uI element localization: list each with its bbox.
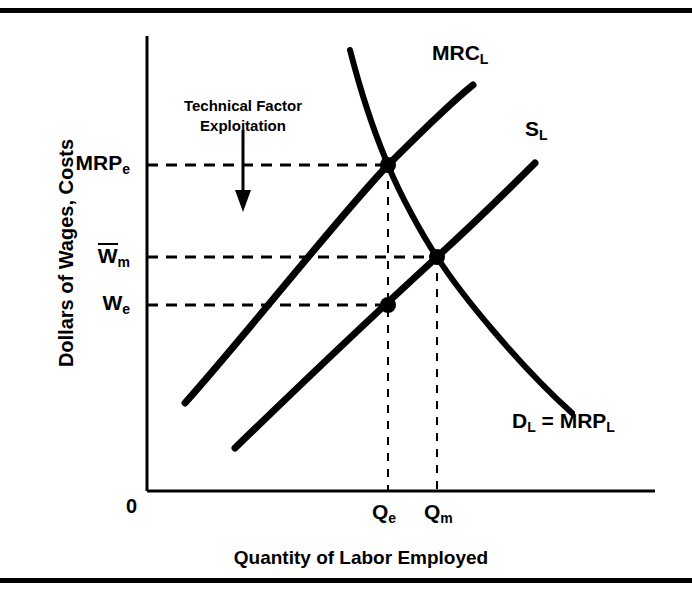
x-tick-label-q-e: Qe — [372, 501, 396, 522]
y-tick-label-w-m: Wm — [20, 243, 130, 266]
curve-label-demand-sub-right: L — [606, 419, 615, 435]
origin-label: 0 — [126, 496, 137, 516]
x-tick-base-q-m: Q — [424, 500, 440, 523]
annotation-text: Technical FactorExploitation — [168, 96, 318, 137]
annotation-line-2: Exploitation — [168, 116, 318, 136]
point-competitive-equilibrium — [429, 249, 445, 265]
y-tick-base-w-e: W — [102, 291, 122, 314]
economics-diagram-figure: Dollars of Wages, Costs Quantity of Labo… — [0, 0, 692, 594]
point-monopsony-optimum — [380, 157, 396, 173]
curve-label-demand: DL = MRPL — [512, 410, 615, 431]
x-tick-label-q-m: Qm — [424, 501, 453, 522]
x-tick-sub-q-m: m — [440, 510, 452, 526]
curve-label-mrc: MRCL — [432, 42, 488, 63]
guide-lines — [147, 165, 437, 305]
curve-label-mrc-sub: L — [480, 51, 489, 67]
y-tick-base-mrp-e: MRP — [76, 151, 123, 174]
down-arrow-icon — [235, 130, 251, 212]
y-tick-sub-mrp-e: e — [122, 161, 130, 177]
y-tick-sub-w-m: m — [118, 254, 130, 270]
x-axis-title: Quantity of Labor Employed — [146, 548, 576, 567]
x-tick-sub-q-e: e — [388, 510, 396, 526]
curve-label-supply: SL — [525, 118, 548, 139]
curve-label-supply-sub: L — [539, 127, 548, 143]
curve-label-demand-base-right: MRP — [560, 409, 607, 432]
curve-label-demand-sub-left: L — [527, 419, 536, 435]
annotation-line-1: Technical Factor — [184, 97, 302, 114]
x-tick-base-q-e: Q — [372, 500, 388, 523]
y-tick-label-w-e: We — [20, 292, 130, 313]
curve-label-demand-equals: = — [536, 409, 560, 432]
y-tick-sub-w-e: e — [122, 301, 130, 317]
point-monopsony-wage — [380, 297, 396, 313]
y-tick-label-mrp-e: MRPe — [20, 152, 130, 173]
y-tick-base-w-m: W — [98, 243, 118, 266]
curve-label-demand-base-left: D — [512, 409, 527, 432]
curve-label-supply-base: S — [525, 117, 539, 140]
curve-label-mrc-base: MRC — [432, 41, 480, 64]
